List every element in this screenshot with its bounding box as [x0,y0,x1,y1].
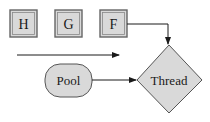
queue-box-g[interactable]: G [55,10,82,37]
f-to-thread-arrow [127,24,168,44]
queue-box-g-label: G [63,17,73,32]
queue-box-h[interactable]: H [10,10,37,37]
diagram-canvas: H G F Pool Thread [0,0,210,122]
thread-label: Thread [151,73,188,88]
thread-node[interactable]: Thread [137,45,202,113]
pool-label: Pool [57,73,81,88]
queue-box-f[interactable]: F [100,10,127,37]
pool-node[interactable]: Pool [45,64,92,97]
queue-box-h-label: H [18,17,28,32]
queue-box-f-label: F [110,17,118,32]
